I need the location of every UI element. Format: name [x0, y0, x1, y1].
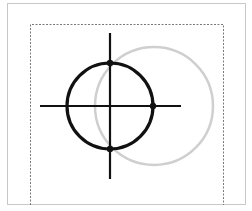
dashed-bounding-frame [31, 25, 224, 206]
outer-frame [8, 4, 246, 205]
diagram-canvas [0, 0, 252, 211]
handle-bottom[interactable] [107, 146, 113, 152]
handle-top[interactable] [107, 60, 113, 66]
handle-right[interactable] [150, 103, 156, 109]
diagram-svg [0, 0, 252, 211]
